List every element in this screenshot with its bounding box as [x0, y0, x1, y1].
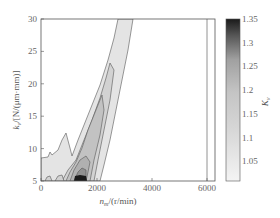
x-tick-label: 0: [39, 183, 44, 193]
x-tick-label: 6000: [198, 183, 217, 193]
colorbar-tick-label: 1.15: [242, 109, 258, 119]
colorbar-tick-label: 1.25: [242, 61, 258, 71]
y-axis-label: kv/[N/(μm·mm)]: [11, 71, 22, 130]
y-tick-label: 10: [28, 144, 38, 154]
x-tick-label: 2000: [88, 183, 107, 193]
y-tick-label: 20: [28, 79, 38, 89]
x-axis-label: nm/(r/min): [100, 196, 137, 207]
x-tick-label: 4000: [143, 183, 162, 193]
contour-chart: 5 10 15 20 25 30 0 2000 4000 6000 nm/(r/…: [0, 0, 280, 218]
y-tick-label: 25: [28, 46, 38, 56]
colorbar-tick-label: 1.2: [242, 85, 253, 95]
y-tick-label: 15: [28, 111, 38, 121]
colorbar: [226, 19, 240, 181]
y-tick-label: 30: [28, 14, 38, 24]
colorbar-tick-label: 1.05: [242, 156, 258, 166]
y-tick-label: 5: [33, 176, 38, 186]
colorbar-ticks: 1.05 1.1 1.15 1.2 1.25 1.3 1.35: [242, 14, 258, 166]
colorbar-tick-label: 1.3: [242, 38, 254, 48]
colorbar-tick-label: 1.1: [242, 133, 253, 143]
colorbar-label: Kv: [260, 97, 271, 107]
colorbar-tick-label: 1.35: [242, 14, 258, 24]
